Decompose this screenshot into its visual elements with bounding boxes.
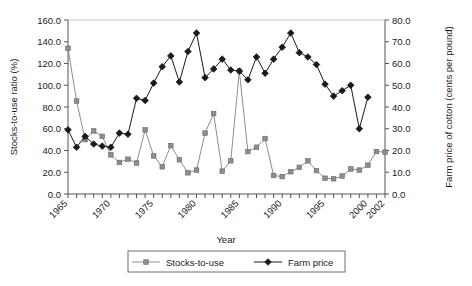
cotton-stocks-and-price-chart: 0.020.040.060.080.0100.0120.0140.0160.0 …: [0, 0, 472, 286]
data-point-marker: [100, 134, 105, 139]
y-left-tick-label: 40.0: [43, 145, 62, 156]
data-point-marker: [288, 169, 293, 174]
x-tick-label: 1990: [261, 198, 284, 221]
y-right-tick-label: 50.0: [392, 80, 411, 91]
data-point-marker: [160, 165, 165, 170]
y-right-tick-label: 20.0: [392, 145, 411, 156]
data-point-marker: [66, 46, 71, 51]
y-left-tick-label: 80.0: [43, 102, 62, 113]
y-right-tick-label: 0.0: [392, 189, 405, 200]
y-left-axis-title: Stocks-to-use ratio (%): [8, 59, 19, 156]
x-axis-title: Year: [216, 234, 235, 245]
y-left-tick-label: 160.0: [37, 15, 61, 26]
data-point-marker: [211, 111, 216, 116]
data-point-marker: [246, 149, 251, 154]
x-axis-labels: 196519701975198019851990199520002002: [47, 198, 387, 221]
data-point-marker: [169, 143, 174, 148]
y-left-tick-label: 120.0: [37, 58, 61, 69]
data-point-marker: [177, 157, 182, 162]
data-point-marker: [203, 131, 208, 136]
legend-label: Stocks-to-use: [166, 257, 224, 268]
data-point-marker: [74, 99, 79, 104]
y-left-tick-label: 60.0: [43, 123, 62, 134]
data-point-marker: [348, 167, 353, 172]
x-tick-label: 1970: [90, 198, 113, 221]
data-point-marker: [280, 174, 285, 179]
x-tick-label: 1965: [47, 198, 70, 221]
data-point-marker: [91, 129, 96, 134]
data-point-marker: [117, 160, 122, 165]
data-point-marker: [323, 176, 328, 181]
y-right-axis-ticks: [385, 20, 389, 194]
data-point-marker: [271, 173, 276, 178]
x-axis-ticks: [68, 194, 385, 198]
y-left-tick-label: 140.0: [37, 36, 61, 47]
data-point-marker: [263, 136, 268, 141]
data-point-marker: [143, 128, 148, 133]
data-point-marker: [374, 149, 379, 154]
chart-container: 0.020.040.060.080.0100.0120.0140.0160.0 …: [0, 0, 472, 286]
y-right-tick-label: 40.0: [392, 102, 411, 113]
legend-label: Farm price: [288, 257, 333, 268]
data-point-marker: [366, 163, 371, 168]
data-point-marker: [340, 174, 345, 179]
data-point-marker: [134, 161, 139, 166]
x-tick-label: 2000: [347, 198, 370, 221]
x-tick-label: 1975: [132, 198, 155, 221]
x-tick-label: 2002: [364, 198, 387, 221]
x-tick-label: 1980: [175, 198, 198, 221]
y-left-tick-label: 20.0: [43, 167, 62, 178]
x-tick-label: 1995: [304, 198, 327, 221]
y-right-tick-label: 70.0: [392, 36, 411, 47]
plot-area-background: [68, 20, 385, 194]
chart-legend: Stocks-to-useFarm price: [128, 251, 345, 272]
data-point-marker: [220, 169, 225, 174]
data-point-marker: [144, 260, 149, 265]
y-right-tick-label: 30.0: [392, 123, 411, 134]
y-left-axis-labels: 0.020.040.060.080.0100.0120.0140.0160.0: [37, 15, 61, 200]
data-point-marker: [109, 153, 114, 158]
y-right-tick-label: 10.0: [392, 167, 411, 178]
x-tick-label: 1985: [218, 198, 241, 221]
y-right-axis-title: Farm price of cotton (cents per pound): [443, 26, 454, 188]
data-point-marker: [357, 168, 362, 173]
data-point-marker: [151, 154, 156, 159]
data-point-marker: [254, 145, 259, 150]
data-point-marker: [186, 170, 191, 175]
y-right-axis-labels: 0.010.020.030.040.050.060.070.080.0: [392, 15, 411, 200]
y-left-tick-label: 100.0: [37, 80, 61, 91]
y-right-tick-label: 60.0: [392, 58, 411, 69]
data-point-marker: [314, 168, 319, 173]
data-point-marker: [383, 150, 388, 155]
y-right-tick-label: 80.0: [392, 15, 411, 26]
data-point-marker: [331, 176, 336, 181]
data-point-marker: [306, 159, 311, 164]
y-left-tick-label: 0.0: [48, 189, 61, 200]
data-point-marker: [126, 157, 131, 162]
data-point-marker: [228, 159, 233, 164]
data-point-marker: [297, 165, 302, 170]
data-point-marker: [194, 168, 199, 173]
